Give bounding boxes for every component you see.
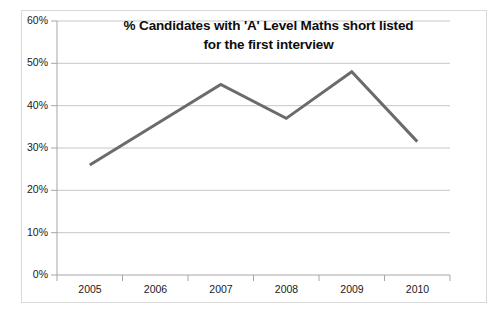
y-tick-label-20: 20% [14, 184, 48, 195]
x-tick-label-2006: 2006 [123, 284, 189, 295]
y-tick-label-0: 0% [14, 269, 48, 280]
y-tick-label-40: 40% [14, 100, 48, 111]
x-tick-label-2010: 2010 [385, 284, 451, 295]
x-axis [57, 275, 450, 281]
x-tick-label-2007: 2007 [188, 284, 254, 295]
chart-title-line-2: for the first interview [96, 35, 441, 54]
y-tick-label-10: 10% [14, 227, 48, 238]
y-tick-label-60: 60% [14, 15, 48, 26]
chart-title: % Candidates with 'A' Level Maths short … [96, 16, 441, 54]
data-series-line [90, 72, 418, 165]
x-tick-label-2005: 2005 [57, 284, 123, 295]
y-axis [51, 21, 57, 275]
y-tick-label-30: 30% [14, 142, 48, 153]
x-tick-label-2009: 2009 [319, 284, 385, 295]
chart-title-line-1: % Candidates with 'A' Level Maths short … [96, 16, 441, 35]
y-tick-label-50: 50% [14, 57, 48, 68]
x-tick-label-2008: 2008 [254, 284, 320, 295]
